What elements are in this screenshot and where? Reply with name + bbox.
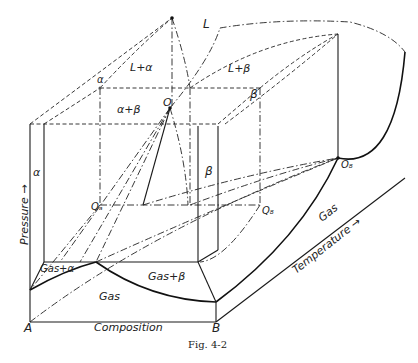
label-beta-mid: β	[204, 164, 213, 178]
label-B: B	[212, 321, 220, 335]
top-dashed-planes	[30, 18, 338, 124]
alpha-liquidus-curve	[100, 18, 172, 88]
alpha-point	[99, 87, 102, 90]
liquid-surface-curve	[170, 21, 405, 108]
Qb-curve-down	[200, 205, 260, 262]
gas-beta-edge	[198, 262, 216, 302]
alpha-top-edge	[44, 88, 100, 124]
label-alpha-beta: α+β	[117, 103, 141, 116]
label-QA: Qₐ	[91, 201, 103, 212]
label-L-beta: L+β	[228, 62, 250, 75]
O-to-Qa-solid	[143, 108, 170, 205]
liquid-boundary	[170, 18, 405, 302]
label-alpha-side: α	[33, 166, 41, 179]
phase-diagram-figure: L L+α L+β α+β α β α β Gas+α Gas+β Gas Ga…	[0, 0, 418, 363]
label-QB: Q₈	[262, 205, 274, 216]
box-bottom-side	[198, 250, 218, 262]
label-gas-side: Gas	[316, 201, 341, 224]
label-L: L	[203, 17, 210, 31]
triple-point-fan	[30, 108, 338, 322]
sublimation-outer-curve-top	[338, 52, 405, 159]
label-gas-alpha: Gas+α	[40, 263, 74, 274]
label-OB: O₈	[341, 159, 353, 170]
beta-solidus-curve	[260, 34, 338, 88]
O-fan-2	[80, 108, 170, 262]
O-to-Qb-curve	[170, 108, 188, 205]
apex-point	[170, 16, 174, 20]
triple-point-OB	[336, 156, 340, 160]
label-alpha-top: α	[97, 74, 104, 85]
phase-diagram-svg: L L+α L+β α+β α β α β Gas+α Gas+β Gas Ga…	[0, 0, 418, 363]
label-gas-front: Gas	[99, 290, 120, 303]
label-beta-top: β	[249, 87, 258, 101]
alpha-melting-curve	[172, 18, 190, 88]
axis-label-composition: Composition	[94, 321, 163, 334]
label-O: O	[163, 96, 172, 109]
label-gas-beta: Gas+β	[148, 270, 185, 283]
O-fan-1	[60, 108, 170, 262]
beta-lower-curve	[225, 34, 338, 124]
Qa-to-A-line	[30, 205, 100, 290]
axis-label-pressure: Pressure →	[18, 185, 31, 245]
axis-label-temperature: Temperature →	[290, 215, 364, 276]
figure-caption: Fig. 4-2	[188, 339, 227, 350]
label-A: A	[23, 321, 32, 335]
Ob-fan-2	[143, 158, 338, 205]
A-to-Ob-line	[30, 158, 338, 322]
label-L-alpha: L+α	[130, 61, 153, 74]
beta-liquidus-upper	[190, 34, 338, 88]
